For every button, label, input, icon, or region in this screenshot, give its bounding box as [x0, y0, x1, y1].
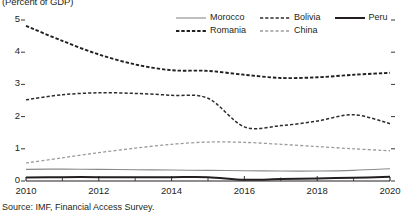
series-line-morocco: [26, 169, 390, 171]
y-axis-label: 1: [8, 142, 20, 153]
chart-figure: (Percent of GDP) MoroccoBoliviaPeruRoman…: [0, 0, 405, 217]
legend-swatch-peru: [335, 14, 365, 22]
legend-label: China: [294, 25, 318, 36]
legend-label: Morocco: [210, 12, 245, 23]
series-line-china: [26, 142, 390, 163]
y-axis-label: 5: [8, 13, 20, 24]
legend-swatch-morocco: [176, 14, 206, 22]
x-axis-label: 2016: [227, 185, 261, 196]
x-axis-label: 2014: [155, 185, 189, 196]
series-line-bolivia: [26, 93, 390, 129]
legend-item-bolivia[interactable]: Bolivia: [260, 12, 321, 23]
legend-label: Bolivia: [294, 12, 321, 23]
y-axis-label: 2: [8, 110, 20, 121]
x-axis-label: 2020: [373, 185, 405, 196]
legend-swatch-china: [260, 27, 290, 35]
x-axis-label: 2018: [300, 185, 334, 196]
legend-label: Romania: [210, 25, 246, 36]
legend-item-romania[interactable]: Romania: [176, 25, 246, 36]
legend-item-morocco[interactable]: Morocco: [176, 12, 246, 23]
y-axis-label: 3: [8, 77, 20, 88]
y-axis-label: 4: [8, 45, 20, 56]
x-axis-label: 2010: [9, 185, 43, 196]
legend-swatch-romania: [176, 27, 206, 35]
chart-legend: MoroccoBoliviaPeruRomaniaChina: [176, 12, 388, 36]
legend-item-china[interactable]: China: [260, 25, 321, 36]
legend-swatch-bolivia: [260, 14, 290, 22]
y-axis-label: 0: [8, 174, 20, 185]
source-note: Source: IMF, Financial Access Survey.: [2, 202, 154, 212]
legend-label: Peru: [369, 12, 388, 23]
legend-item-peru[interactable]: Peru: [335, 12, 388, 23]
x-axis-label: 2012: [82, 185, 116, 196]
